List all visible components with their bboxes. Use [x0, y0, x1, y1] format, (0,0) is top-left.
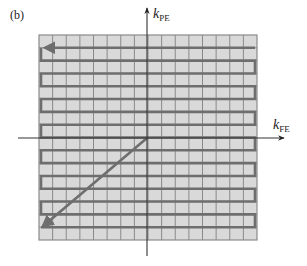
k-space-trajectory-diagram — [0, 0, 307, 266]
